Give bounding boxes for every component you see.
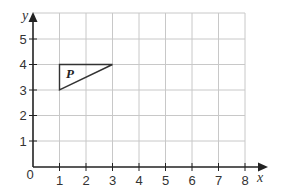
svg-text:1: 1 <box>19 134 26 149</box>
svg-text:8: 8 <box>241 173 248 188</box>
x-tick-labels: 1 2 3 4 5 6 7 8 <box>56 173 249 188</box>
svg-text:2: 2 <box>19 108 26 123</box>
triangle-p-label: P <box>66 66 75 81</box>
svg-text:2: 2 <box>82 173 89 188</box>
y-axis-label: y <box>20 8 29 23</box>
origin-label: 0 <box>26 167 33 182</box>
y-tick-labels: 5 4 3 2 1 <box>19 32 26 149</box>
svg-text:1: 1 <box>56 173 63 188</box>
svg-text:4: 4 <box>135 173 142 188</box>
svg-text:3: 3 <box>109 173 116 188</box>
svg-text:5: 5 <box>19 32 26 47</box>
svg-text:5: 5 <box>162 173 169 188</box>
svg-text:3: 3 <box>19 83 26 98</box>
svg-text:7: 7 <box>215 173 222 188</box>
svg-text:4: 4 <box>19 57 26 72</box>
grid-lines <box>33 13 245 167</box>
coordinate-grid: 1 2 3 4 5 6 7 8 5 4 3 2 1 0 x y P <box>0 0 281 194</box>
axes <box>33 20 260 167</box>
svg-text:6: 6 <box>188 173 195 188</box>
x-axis-label: x <box>256 170 264 185</box>
